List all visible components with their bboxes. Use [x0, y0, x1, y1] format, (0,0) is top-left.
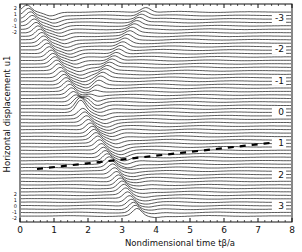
x-tick-label: 6 — [221, 225, 227, 235]
plot-area: 012345678210-1-2210-1-2-3-2-10123 — [0, 0, 302, 252]
x-tick-label: 1 — [51, 225, 57, 235]
svg-text:-1: -1 — [275, 76, 284, 86]
waterfall-chart: 012345678210-1-2210-1-2-3-2-10123 Horizo… — [0, 0, 302, 252]
svg-text:-2: -2 — [12, 215, 17, 221]
svg-text:2: 2 — [278, 170, 284, 180]
svg-text:-3: -3 — [275, 13, 284, 23]
x-tick-label: 0 — [17, 225, 23, 235]
svg-text:1: 1 — [278, 138, 284, 148]
x-tick-label: 4 — [153, 225, 159, 235]
svg-text:3: 3 — [278, 201, 284, 211]
svg-text:0: 0 — [278, 107, 284, 117]
x-axis-label: Nondimensional time tβ/a — [100, 238, 260, 248]
x-tick-label: 2 — [85, 225, 91, 235]
svg-text:-2: -2 — [12, 29, 17, 35]
x-tick-label: 5 — [187, 225, 193, 235]
x-tick-label: 3 — [119, 225, 125, 235]
y-axis-label: Horizontal displacement u1 — [2, 54, 14, 174]
x-tick-label: 7 — [255, 225, 261, 235]
x-tick-label: 8 — [289, 225, 295, 235]
svg-text:-2: -2 — [275, 44, 284, 54]
